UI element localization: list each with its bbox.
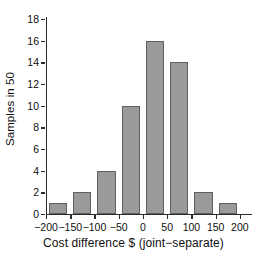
y-axis-tick-label: 14 — [27, 57, 39, 68]
x-axis-tick — [46, 214, 47, 219]
bar — [170, 62, 188, 214]
y-axis-tick-label: 12 — [27, 79, 39, 90]
bar — [97, 171, 115, 214]
x-axis-tick — [70, 214, 71, 219]
y-axis-title-text: Samples in 50 — [4, 72, 16, 146]
bar — [219, 203, 237, 214]
x-axis-tick-label: −150 — [58, 222, 82, 233]
bar — [122, 106, 140, 214]
x-axis-tick-label: −50 — [110, 222, 128, 233]
x-axis-tick — [94, 214, 95, 219]
plot-area: 024681012141618−200−150−100−500501001502… — [46, 19, 252, 214]
x-axis-tick-label: 100 — [183, 222, 201, 233]
y-axis-tick — [41, 149, 46, 150]
y-axis-title: Samples in 50 — [0, 0, 20, 218]
x-axis-tick — [119, 214, 120, 219]
x-axis-title: Cost difference $ (joint−separate) — [0, 236, 267, 250]
bar — [146, 41, 164, 214]
x-axis-tick — [216, 214, 217, 219]
x-axis-tick — [191, 214, 192, 219]
bar — [49, 203, 67, 214]
y-axis-tick-label: 10 — [27, 100, 39, 111]
x-axis-tick — [240, 214, 241, 219]
y-axis-tick — [41, 19, 46, 20]
x-axis-tick-label: −200 — [34, 222, 58, 233]
y-axis-tick-label: 6 — [33, 144, 39, 155]
y-axis-tick — [41, 171, 46, 172]
y-axis-tick — [41, 84, 46, 85]
x-axis-tick-label: 0 — [140, 222, 146, 233]
x-axis-tick-label: −100 — [83, 222, 107, 233]
y-axis-tick — [41, 41, 46, 42]
y-axis-tick-label: 0 — [33, 209, 39, 220]
y-axis-tick-label: 8 — [33, 122, 39, 133]
chart-figure: Samples in 50 024681012141618−200−150−10… — [0, 0, 267, 261]
bar — [73, 192, 91, 214]
y-axis-tick — [41, 62, 46, 63]
y-axis-tick — [41, 192, 46, 193]
y-axis-tick — [41, 106, 46, 107]
y-axis-tick-label: 16 — [27, 35, 39, 46]
x-axis-tick-label: 150 — [207, 222, 225, 233]
y-axis-tick-label: 4 — [33, 165, 39, 176]
y-axis-tick-label: 2 — [33, 187, 39, 198]
y-axis-tick-label: 18 — [27, 14, 39, 25]
x-axis-tick — [167, 214, 168, 219]
bar — [194, 192, 212, 214]
y-axis-tick — [41, 127, 46, 128]
x-axis-tick-label: 200 — [231, 222, 249, 233]
x-axis-tick-label: 50 — [161, 222, 173, 233]
x-axis-tick — [143, 214, 144, 219]
y-axis-tick — [41, 214, 46, 215]
